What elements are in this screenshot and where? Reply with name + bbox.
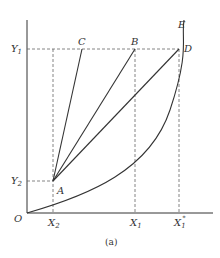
x2-label: X2 bbox=[47, 217, 60, 230]
origin-label: O bbox=[14, 213, 22, 224]
point-d-label: D bbox=[183, 43, 192, 54]
curve-o-e bbox=[27, 20, 184, 213]
y1-label: Y1 bbox=[11, 43, 22, 56]
point-e-label: E bbox=[177, 19, 186, 30]
point-a-label: A bbox=[56, 185, 64, 196]
point-c-label: C bbox=[78, 36, 86, 47]
segment-a-b bbox=[53, 49, 135, 181]
x1-label: X1 bbox=[129, 217, 142, 230]
point-b-label: B bbox=[130, 36, 138, 47]
rays-from-a bbox=[53, 49, 179, 181]
x1-star-label: X1* bbox=[173, 214, 186, 230]
figure-caption: (a) bbox=[105, 237, 117, 247]
segment-a-d bbox=[53, 49, 179, 181]
diagram-canvas: O Y1 Y2 X2 X1 X1* A B C D E (a) bbox=[0, 0, 220, 258]
y2-label: Y2 bbox=[11, 175, 23, 188]
segment-a-c bbox=[53, 49, 82, 181]
